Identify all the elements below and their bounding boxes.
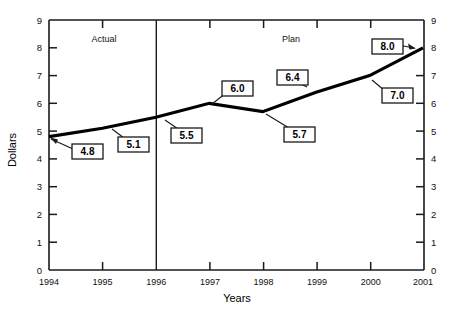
line-chart: 9 8 7 6 5 4 3 2 1 0 9 8 7 6 5 4 3 2 1 0 [0,0,455,316]
y-label-left-2: 2 [37,209,42,220]
arrowhead-4-8 [50,138,58,145]
y-label-right-1: 1 [431,237,436,248]
callout-label-6-4: 6.4 [286,72,300,83]
y-label-right-7: 7 [431,70,436,81]
y-label-left-0: 0 [37,265,42,276]
y-label-left-8: 8 [37,42,42,53]
callout-6-0: 6.0 [222,81,253,96]
y-ticks-right [416,76,424,243]
callout-label-4-8: 4.8 [81,146,95,157]
y-label-left-1: 1 [37,237,42,248]
y-axis-title: Dollars [6,132,18,167]
y-label-left-4: 4 [37,153,42,164]
x-label-1998: 1998 [254,277,274,287]
axes-frame [49,20,424,270]
y-label-right-2: 2 [431,209,436,220]
y-label-right-3: 3 [431,181,436,192]
y-label-right-4: 4 [431,153,436,164]
y-label-left-6: 6 [37,98,42,109]
leader-5-7 [266,114,289,128]
callout-7-0: 7.0 [382,88,413,103]
y-label-left-7: 7 [37,70,42,81]
x-label-1999: 1999 [307,277,327,287]
callout-5-1: 5.1 [118,137,149,152]
x-label-1995: 1995 [93,277,113,287]
x-label-1996: 1996 [146,277,166,287]
x-ticks [103,262,371,270]
callout-label-8-0: 8.0 [381,41,395,52]
callout-label-5-5: 5.5 [180,130,194,141]
x-label-1997: 1997 [200,277,220,287]
y-label-right-0: 0 [431,265,436,276]
callout-8-0: 8.0 [372,39,403,54]
arrowhead-8-0 [408,44,416,50]
x-ticks-top [103,20,371,28]
y-label-right-9: 9 [431,15,436,26]
x-label-1994: 1994 [39,277,59,287]
y-tick-labels-right: 9 8 7 6 5 4 3 2 1 0 [431,15,436,276]
callout-4-8: 4.8 [72,144,103,159]
x-axis-title: Years [223,292,251,304]
y-tick-labels-left: 9 8 7 6 5 4 3 2 1 0 [37,15,42,276]
callout-5-5: 5.5 [171,128,202,143]
y-label-right-6: 6 [431,98,436,109]
actual-region-label: Actual [91,34,116,44]
chart-screenshot: 9 8 7 6 5 4 3 2 1 0 9 8 7 6 5 4 3 2 1 0 [0,0,455,316]
callout-5-7: 5.7 [284,127,315,142]
callout-label-6-0: 6.0 [231,83,245,94]
y-label-right-8: 8 [431,42,436,53]
y-label-left-9: 9 [37,15,42,26]
callout-label-7-0: 7.0 [391,90,405,101]
callout-leaders [51,45,414,149]
y-label-right-5: 5 [431,126,436,137]
plan-region-label: Plan [282,34,300,44]
x-tick-labels: 1994 1995 1996 1997 1998 1999 2000 2001 [39,277,433,287]
x-label-2001: 2001 [413,277,433,287]
callout-label-5-7: 5.7 [293,129,307,140]
y-ticks-left [49,48,57,242]
callout-label-5-1: 5.1 [127,139,141,150]
x-label-2000: 2000 [361,277,381,287]
y-label-left-3: 3 [37,181,42,192]
y-label-left-5: 5 [37,126,42,137]
callout-6-4: 6.4 [277,70,308,85]
